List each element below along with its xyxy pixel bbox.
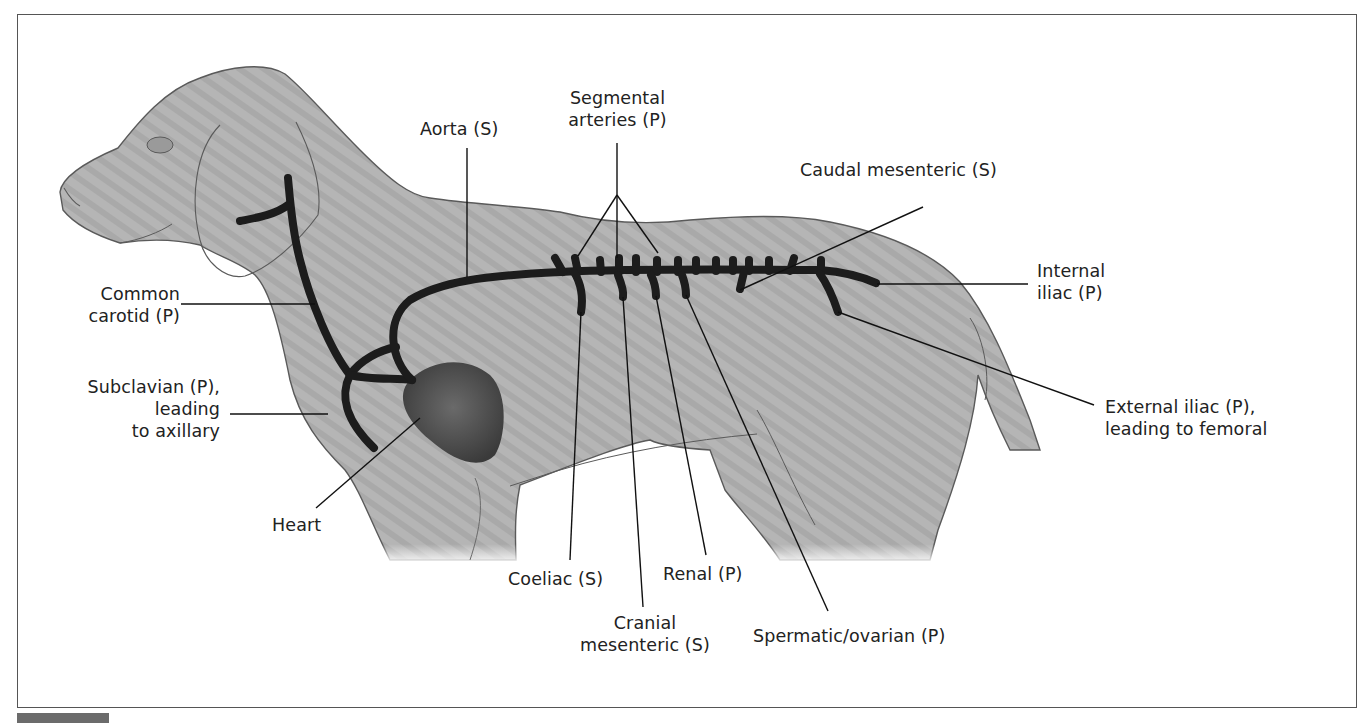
label-segmental-arteries: Segmental arteries (P) — [555, 87, 680, 131]
label-coeliac: Coeliac (S) — [508, 568, 603, 590]
label-cranial-mesenteric: Cranial mesenteric (S) — [560, 612, 730, 656]
label-aorta: Aorta (S) — [420, 118, 498, 140]
dog-silhouette — [60, 67, 1060, 565]
eye — [147, 137, 173, 153]
label-spermatic-ovarian: Spermatic/ovarian (P) — [753, 625, 945, 647]
label-renal: Renal (P) — [663, 563, 743, 585]
label-heart: Heart — [272, 514, 321, 536]
label-common-carotid: Common carotid (P) — [60, 283, 180, 327]
label-subclavian: Subclavian (P), leading to axillary — [40, 376, 220, 442]
label-caudal-mesenteric: Caudal mesenteric (S) — [800, 159, 997, 181]
label-internal-iliac: Internal iliac (P) — [1037, 260, 1105, 304]
label-external-iliac: External iliac (P), leading to femoral — [1105, 396, 1267, 440]
